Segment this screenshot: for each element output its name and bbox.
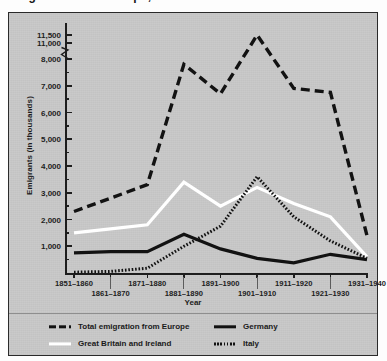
legend-column-left: Total emigration from EuropeGreat Britai… xyxy=(49,318,189,352)
legend-swatch-icon xyxy=(214,338,236,349)
legend-label: Germany xyxy=(243,322,278,331)
plot-lines xyxy=(9,13,379,357)
legend-label: Italy xyxy=(243,339,259,348)
legend-divider xyxy=(9,313,377,314)
caption-text: Emigration from Europe, 1851–1940 xyxy=(6,0,217,3)
legend-item: Germany xyxy=(214,318,278,335)
chart-page: Emigration from Europe, 1851–1940 Emigra… xyxy=(0,0,387,361)
legend-column-right: GermanyItaly xyxy=(214,318,278,352)
series-line xyxy=(74,182,367,257)
figure-frame: Emigrants (in thousands) 1,0002,0003,000… xyxy=(8,12,378,356)
legend-item: Great Britain and Ireland xyxy=(49,335,189,352)
series-line xyxy=(74,234,367,263)
cut-off-caption: Emigration from Europe, 1851–1940 xyxy=(0,0,387,11)
legend-item: Total emigration from Europe xyxy=(49,318,189,335)
legend-swatch-icon xyxy=(214,321,236,332)
legend-item: Italy xyxy=(214,335,278,352)
series-line xyxy=(74,177,367,273)
legend-swatch-icon xyxy=(49,321,71,332)
legend-label: Great Britain and Ireland xyxy=(78,339,171,348)
legend-swatch-icon xyxy=(49,338,71,349)
legend-label: Total emigration from Europe xyxy=(78,322,189,331)
chart-legend: Total emigration from EuropeGreat Britai… xyxy=(9,318,379,356)
